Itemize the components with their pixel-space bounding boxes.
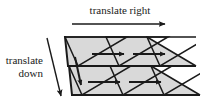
translation-tiling-figure: translate right translate down (0, 0, 210, 106)
overflow-mask (196, 30, 210, 100)
translate-right-label: translate right (90, 4, 151, 16)
diagram-canvas: translate right translate down (0, 0, 210, 106)
translate-down-arrow (47, 38, 61, 96)
translate-down-label-line1: translate (6, 54, 43, 66)
translate-down-label-line2: down (19, 67, 44, 79)
